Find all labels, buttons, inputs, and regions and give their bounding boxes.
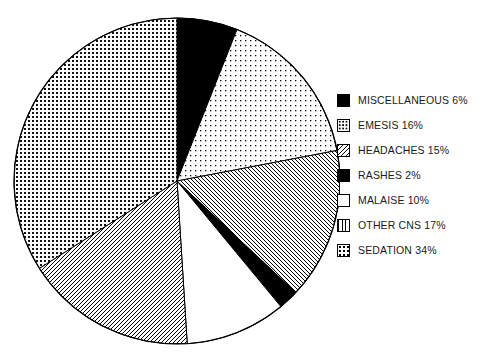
legend-label-malaise: MALAISE 10% bbox=[358, 194, 429, 207]
legend-swatch-emesis bbox=[337, 119, 350, 132]
legend-label-sedation: SEDATION 34% bbox=[358, 244, 437, 257]
chart-legend: MISCELLANEOUS 6% EMESIS 16% HEADACHES 15… bbox=[337, 88, 481, 263]
legend-label-headaches: HEADACHES 15% bbox=[358, 144, 449, 157]
legend-item-malaise[interactable]: MALAISE 10% bbox=[337, 188, 481, 213]
legend-item-miscellaneous[interactable]: MISCELLANEOUS 6% bbox=[337, 88, 481, 113]
pie-chart-area bbox=[0, 0, 340, 356]
legend-label-emesis: EMESIS 16% bbox=[358, 119, 423, 132]
legend-swatch-headaches bbox=[337, 144, 350, 157]
legend-swatch-sedation bbox=[337, 244, 350, 257]
legend-swatch-other-cns bbox=[337, 219, 350, 232]
legend-label-other-cns: OTHER CNS 17% bbox=[358, 219, 446, 232]
legend-swatch-miscellaneous bbox=[337, 94, 350, 107]
legend-label-rashes: RASHES 2% bbox=[358, 169, 421, 182]
legend-item-other-cns[interactable]: OTHER CNS 17% bbox=[337, 213, 481, 238]
legend-swatch-rashes bbox=[337, 169, 350, 182]
legend-item-rashes[interactable]: RASHES 2% bbox=[337, 163, 481, 188]
legend-item-emesis[interactable]: EMESIS 16% bbox=[337, 113, 481, 138]
pie-chart-figure: MISCELLANEOUS 6% EMESIS 16% HEADACHES 15… bbox=[0, 0, 481, 356]
legend-swatch-malaise bbox=[337, 194, 350, 207]
legend-item-sedation[interactable]: SEDATION 34% bbox=[337, 238, 481, 263]
pie-chart-svg bbox=[0, 0, 340, 356]
legend-item-headaches[interactable]: HEADACHES 15% bbox=[337, 138, 481, 163]
legend-label-miscellaneous: MISCELLANEOUS 6% bbox=[358, 94, 468, 107]
